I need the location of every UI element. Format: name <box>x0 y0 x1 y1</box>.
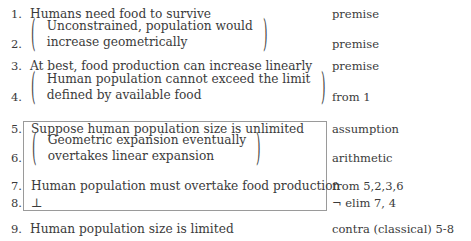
line-statement-2-part-1: Unconstrained, population would <box>47 19 253 35</box>
line-number-8: 8. <box>0 198 22 210</box>
line-number-1: 1. <box>0 9 22 21</box>
line-justification-1: premise <box>332 9 379 21</box>
line-justification-4: from 1 <box>332 92 371 104</box>
line-statement-group-4: ( Human population cannot exceed the lim… <box>30 72 326 103</box>
line-number-slot-3: 3. <box>0 58 22 72</box>
line-number-7: 7. <box>0 181 22 193</box>
line-number-5: 5. <box>0 124 22 136</box>
line-justification-9: contra (classical) 5-8 <box>332 224 454 236</box>
line-statement-2: Unconstrained, population would increase… <box>37 19 262 50</box>
right-paren-icon-6: ) <box>255 130 261 167</box>
line-number-slot-4: 4. <box>0 89 22 103</box>
line-justification-6: arithmetic <box>332 153 393 165</box>
left-paren-icon-2: ( <box>30 16 36 53</box>
left-paren-icon-4: ( <box>30 69 36 106</box>
proof-root: 1. Humans need food to survive premise 2… <box>0 0 471 241</box>
line-number-slot-1: 1. <box>0 6 22 20</box>
line-justification-5: assumption <box>332 124 399 136</box>
right-paren-icon-2: ) <box>262 16 268 53</box>
line-justification-7: from 5,2,3,6 <box>332 181 403 193</box>
line-number-2: 2. <box>0 39 22 51</box>
line-statement-3: At best, food production can increase li… <box>30 60 312 72</box>
line-number-6: 6. <box>0 153 22 165</box>
line-statement-6: Geometric expansion eventually overtakes… <box>38 133 255 164</box>
line-number-slot-7: 7. <box>0 178 22 192</box>
line-number-slot-2: 2. <box>0 36 22 50</box>
line-number-slot-8: 8. <box>0 195 22 209</box>
falsum-icon: ⊥ <box>31 197 43 210</box>
line-justification-3: premise <box>332 61 379 73</box>
line-statement-6-part-1: Geometric expansion eventually <box>48 133 246 149</box>
line-statement-4-part-1: Human population cannot exceed the limit <box>47 72 311 88</box>
line-statement-group-6: ( Geometric expansion eventually overtak… <box>31 133 262 164</box>
line-number-slot-9: 9. <box>0 221 22 235</box>
line-number-slot-6: 6. <box>0 150 22 164</box>
line-statement-4-part-2: defined by available food <box>47 88 311 104</box>
line-statement-2-part-2: increase geometrically <box>47 35 253 51</box>
left-paren-icon-6: ( <box>31 130 37 167</box>
line-number-4: 4. <box>0 92 22 104</box>
line-number-3: 3. <box>0 61 22 73</box>
line-statement-6-part-2: overtakes linear expansion <box>48 149 246 165</box>
line-statement-7: Human population must overtake food prod… <box>31 180 340 192</box>
line-justification-8: ¬ elim 7, 4 <box>332 198 396 210</box>
line-statement-4: Human population cannot exceed the limit… <box>37 72 320 103</box>
line-number-slot-5: 5. <box>0 121 22 135</box>
right-paren-icon-4: ) <box>320 69 326 106</box>
line-statement-group-2: ( Unconstrained, population would increa… <box>30 19 269 50</box>
line-number-9: 9. <box>0 224 22 236</box>
line-justification-2: premise <box>332 39 379 51</box>
line-statement-9: Human population size is limited <box>30 223 234 235</box>
